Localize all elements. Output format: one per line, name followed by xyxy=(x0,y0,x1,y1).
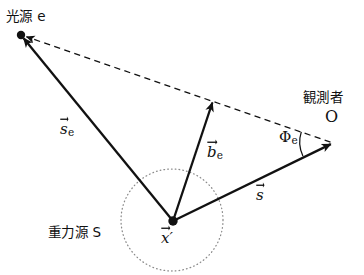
vector-se-arrow xyxy=(24,38,173,221)
vector-se-glyph: s xyxy=(60,122,68,137)
vector-s-glyph: s xyxy=(256,188,264,203)
angle-phi-e-label: Φe xyxy=(279,130,298,146)
light-source-point xyxy=(17,31,25,39)
vector-s-arrow xyxy=(173,144,331,221)
observer-label: 観測者 xyxy=(303,91,343,105)
vector-be-arrow xyxy=(173,103,212,222)
vector-x-prime-glyph: x xyxy=(161,231,169,246)
vector-se-label: s e xyxy=(60,122,74,138)
angle-phi-e-arc xyxy=(300,132,303,156)
vector-be-label: b e xyxy=(207,145,223,161)
light-source-label: 光源 e xyxy=(6,10,46,24)
observer-point-label: O xyxy=(325,109,338,125)
gravity-source-label: 重力源 S xyxy=(48,226,101,240)
vector-be-subscript: e xyxy=(217,149,223,161)
angle-phi-e-subscript: e xyxy=(292,134,298,146)
lensing-diagram: 光源 e 観測者 O 重力源 S s e b e xyxy=(0,0,364,275)
vector-be-base-letter: b xyxy=(207,145,217,160)
vector-s-label: s xyxy=(256,188,264,203)
vector-x-prime-base-letter: x xyxy=(161,231,169,246)
vector-s-base-letter: s xyxy=(256,188,264,203)
angle-phi-e-base: Φ xyxy=(279,128,291,146)
vector-be-glyph: b xyxy=(207,145,217,160)
vector-se-base-letter: s xyxy=(60,122,68,137)
vector-x-prime-label: x ′ xyxy=(161,231,173,246)
vector-se-subscript: e xyxy=(68,126,74,138)
field-point-x-prime xyxy=(168,216,177,225)
vector-x-prime-mark: ′ xyxy=(169,229,172,247)
